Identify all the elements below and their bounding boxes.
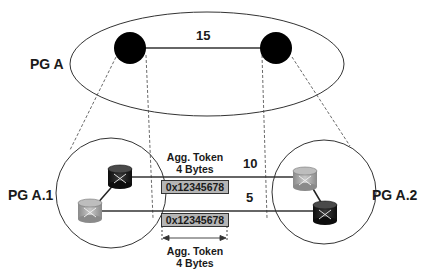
agg-token-bottom-line1: Agg. Token xyxy=(163,245,227,257)
router-a2-bottom xyxy=(313,201,337,225)
agg-token-top-line2: 4 Bytes xyxy=(163,163,227,175)
agg-token-top-line1: Agg. Token xyxy=(163,151,227,163)
agg-token-bottom-label: Agg. Token 4 Bytes xyxy=(163,245,227,269)
pg-a1-label: PG A.1 xyxy=(8,187,53,203)
link-10-metric: 10 xyxy=(243,156,257,171)
pg-a1-circle xyxy=(56,138,166,248)
router-a2-top xyxy=(293,167,317,191)
token-box-link-5: 0x12345678 xyxy=(161,213,229,227)
aggregation-token-diagram: 15 PG A PG A.1 PG A.2 10 5 Agg. Token 4 … xyxy=(0,0,425,274)
agg-token-top-label: Agg. Token 4 Bytes xyxy=(163,151,227,175)
logical-node-right xyxy=(260,32,292,64)
logical-node-left xyxy=(114,32,146,64)
pg-a2-label: PG A.2 xyxy=(372,187,417,203)
pg-a2-circle xyxy=(272,140,376,244)
agg-token-bottom-line2: 4 Bytes xyxy=(163,257,227,269)
router-a1-bottom xyxy=(78,199,102,223)
logical-link-metric: 15 xyxy=(196,28,210,43)
pg-a-label: PG A xyxy=(30,56,64,72)
link-5-metric: 5 xyxy=(246,190,253,205)
token-box-link-10: 0x12345678 xyxy=(161,180,229,194)
diagram-graphics xyxy=(0,0,425,274)
router-a1-top xyxy=(108,165,132,189)
